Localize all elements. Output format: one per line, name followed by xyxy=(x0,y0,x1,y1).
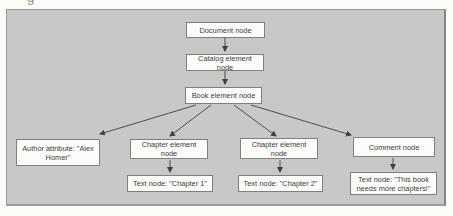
node-text-chapter1: Text node: "Chapter 1" xyxy=(127,175,213,192)
scanned-figure-page: g Document node Catalog element node Boo… xyxy=(0,0,453,216)
node-document: Document node xyxy=(186,22,265,38)
cropped-text-fragment: g xyxy=(27,0,34,5)
node-comment: Comment node xyxy=(353,137,435,157)
node-text-chapter2: Text node: "Chapter 2" xyxy=(238,175,323,192)
node-book-element: Book element node xyxy=(185,87,262,104)
node-text-comment-content: Text node: "This book needs more chapter… xyxy=(350,172,437,195)
node-catalog-element: Catalog element node xyxy=(186,54,264,71)
node-chapter1-element: Chapter element node xyxy=(130,139,208,159)
node-chapter2-element: Chapter element node xyxy=(240,138,318,159)
node-author-attribute: Author attribute: "Alex Homer" xyxy=(16,139,100,166)
